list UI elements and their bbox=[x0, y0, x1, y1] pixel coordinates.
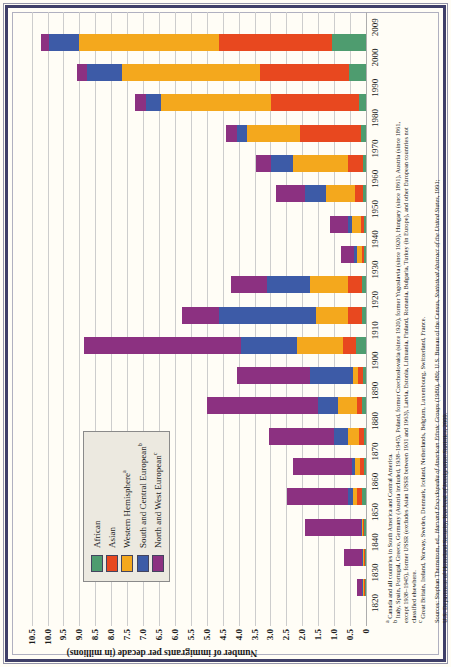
y-tick-label-9.5: 9.5 bbox=[58, 629, 68, 659]
y-tick-label-9.0: 9.0 bbox=[74, 629, 84, 659]
footnote-line-2: b Italy, Spain, Portugal, Greece, German… bbox=[394, 122, 401, 623]
bar-segment-1890s-north-and-west-european bbox=[237, 367, 310, 384]
bar-segment-1900s-african bbox=[356, 337, 366, 354]
bar-segment-2000s-asian bbox=[219, 34, 331, 51]
bar-segment-1990s-south-and-central-european bbox=[87, 64, 123, 81]
gridline bbox=[32, 12, 33, 626]
bar-segment-1960s-south-and-central-european bbox=[271, 155, 294, 172]
bar-segment-1830s-north-and-west-european bbox=[344, 549, 362, 566]
bar-segment-1840s-western-hemisphere bbox=[362, 519, 364, 536]
sources-line-2: U.S. Department of Homeland Security, Ye… bbox=[441, 413, 448, 623]
gridline bbox=[63, 12, 64, 626]
gridline bbox=[79, 12, 80, 626]
y-tick-label-0: 0 bbox=[361, 629, 371, 659]
bar-segment-1900s-asian bbox=[343, 337, 356, 354]
footnote-line-1: a Canada and all countries in South Amer… bbox=[386, 453, 393, 623]
bar-segment-1980s-north-and-west-european bbox=[135, 94, 146, 111]
bar-segment-1820s-western-hemisphere bbox=[363, 579, 365, 596]
immigration-bar-chart-figure: Number of immigrants per decade (in mill… bbox=[0, 0, 451, 667]
bar-segment-1840s-african bbox=[364, 519, 366, 536]
y-tick-label-1.0: 1.0 bbox=[329, 629, 339, 659]
bar-segment-1970s-asian bbox=[300, 125, 361, 142]
bar-segment-1880s-african bbox=[362, 397, 366, 414]
bar-segment-1860s-african bbox=[364, 458, 366, 475]
bar-segment-1840s-north-and-west-european bbox=[305, 519, 361, 536]
bar-segment-1840s-asian bbox=[363, 519, 364, 536]
bar-segment-2000s-african bbox=[332, 34, 366, 51]
y-tick-label-1.5: 1.5 bbox=[313, 629, 323, 659]
bar-segment-1880s-western-hemisphere bbox=[338, 397, 357, 414]
bar-segment-1890s-african bbox=[363, 367, 366, 384]
bar-segment-1930s-south-and-central-european bbox=[354, 246, 357, 263]
bar-segment-1910s-african bbox=[362, 307, 366, 324]
bar-segment-1950s-western-hemisphere bbox=[326, 185, 355, 202]
bar-segment-1950s-african bbox=[363, 185, 366, 202]
bar-segment-1830s-asian bbox=[364, 549, 365, 566]
legend-swatch-african bbox=[91, 555, 103, 572]
bar-segment-1860s-north-and-west-european bbox=[293, 458, 352, 475]
bar-segment-1960s-african bbox=[363, 155, 366, 172]
bar-segment-1950s-north-and-west-european bbox=[276, 185, 306, 202]
y-tick-label-4.0: 4.0 bbox=[234, 629, 244, 659]
bar-segment-1820s-south-and-central-european bbox=[362, 579, 363, 596]
sources-line-1: Sources: Stephan Thernstrom, ed., Harvar… bbox=[433, 180, 440, 623]
bar-segment-1940s-asian bbox=[361, 216, 364, 233]
bar-segment-1900s-south-and-central-european bbox=[241, 337, 297, 354]
y-tick-label-6.0: 6.0 bbox=[170, 629, 180, 659]
bar-segment-1850s-asian bbox=[357, 488, 362, 505]
legend-label: South and Central Europeanb bbox=[138, 443, 148, 548]
y-tick-label-8.5: 8.5 bbox=[90, 629, 100, 659]
legend-label: North and West Europeanc bbox=[153, 452, 163, 548]
bar-segment-1850s-african bbox=[362, 488, 366, 505]
bar-segment-1890s-western-hemisphere bbox=[353, 367, 358, 384]
bar-segment-1820s-african bbox=[365, 579, 366, 596]
legend-item-asian: Asian bbox=[104, 432, 119, 581]
bar-segment-1920s-asian bbox=[348, 276, 362, 293]
y-tick-label-7.0: 7.0 bbox=[138, 629, 148, 659]
bar-segment-1970s-western-hemisphere bbox=[247, 125, 300, 142]
bar-segment-1900s-western-hemisphere bbox=[297, 337, 343, 354]
footnote-line-4: classified elsewhere. bbox=[410, 570, 417, 623]
y-tick-label-10.0: 10.0 bbox=[43, 629, 53, 659]
bar-segment-1960s-asian bbox=[348, 155, 362, 172]
bar-segment-1910s-western-hemisphere bbox=[316, 307, 348, 324]
bar-segment-2000s-western-hemisphere bbox=[79, 34, 219, 51]
bar-segment-1940s-african bbox=[364, 216, 366, 233]
legend-swatch-south-and-central-european bbox=[137, 555, 149, 572]
y-tick-label-5.5: 5.5 bbox=[186, 629, 196, 659]
bar-segment-1940s-south-and-central-european bbox=[348, 216, 352, 233]
bar-segment-1860s-asian bbox=[360, 458, 364, 475]
y-tick-label-6.5: 6.5 bbox=[154, 629, 164, 659]
y-tick-label-2.5: 2.5 bbox=[281, 629, 291, 659]
bar-segment-1970s-south-and-central-european bbox=[237, 125, 247, 142]
legend-swatch-western-hemisphere bbox=[121, 555, 133, 572]
legend-swatch-north-and-west-european bbox=[152, 555, 164, 572]
bar-segment-1870s-south-and-central-european bbox=[334, 428, 347, 445]
y-tick-label-4.5: 4.5 bbox=[218, 629, 228, 659]
y-tick-label-7.5: 7.5 bbox=[122, 629, 132, 659]
bar-segment-1910s-north-and-west-european bbox=[182, 307, 219, 324]
bar-segment-1930s-western-hemisphere bbox=[357, 246, 362, 263]
rotated-figure-page: Number of immigrants per decade (in mill… bbox=[0, 0, 451, 667]
legend-swatch-asian bbox=[106, 555, 118, 572]
bar-segment-1930s-asian bbox=[362, 246, 365, 263]
y-tick-label-8.0: 8.0 bbox=[106, 629, 116, 659]
legend-item-south-and-central-european: South and Central Europeanb bbox=[135, 432, 150, 581]
bar-segment-1870s-african bbox=[364, 428, 366, 445]
bar-segment-1980s-south-and-central-european bbox=[146, 94, 161, 111]
bar-segment-1850s-north-and-west-european bbox=[287, 488, 348, 505]
bar-segment-1890s-asian bbox=[358, 367, 363, 384]
legend: AfricanAsianWestern HemisphereaSouth and… bbox=[83, 431, 170, 582]
bar-segment-1960s-western-hemisphere bbox=[293, 155, 348, 172]
bar-segment-1820s-asian bbox=[364, 579, 365, 596]
bar-segment-1870s-western-hemisphere bbox=[348, 428, 359, 445]
bar-segment-1930s-african bbox=[364, 246, 366, 263]
bar-segment-1840s-south-and-central-european bbox=[361, 519, 362, 536]
legend-label: Western Hemispherea bbox=[122, 470, 132, 548]
legend-item-western-hemisphere: Western Hemispherea bbox=[120, 432, 135, 581]
bar-segment-1870s-north-and-west-european bbox=[269, 428, 334, 445]
gridline bbox=[48, 12, 49, 626]
x-tick-label-2009: 2009 bbox=[370, 9, 380, 45]
bar-segment-1900s-north-and-west-european bbox=[84, 337, 242, 354]
bar-segment-1850s-south-and-central-european bbox=[348, 488, 353, 505]
